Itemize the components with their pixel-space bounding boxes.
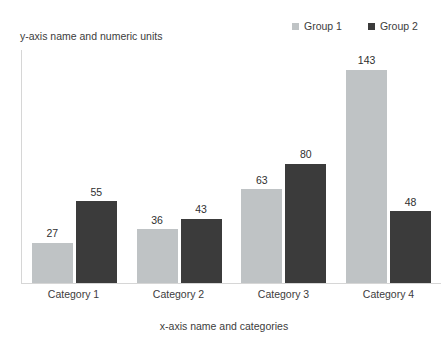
bar-value-label: 80 — [300, 149, 312, 160]
bar-value-label: 27 — [47, 228, 59, 239]
bar-group: 3643 — [137, 50, 222, 283]
bar-group-2[interactable] — [285, 164, 326, 283]
bar-column: 143 — [346, 50, 387, 283]
bar-chart: Group 1 Group 2 y-axis name and numeric … — [0, 0, 448, 339]
bar-value-label: 55 — [91, 187, 103, 198]
bar-column: 48 — [390, 50, 431, 283]
bar-group-1[interactable] — [346, 70, 387, 283]
bar-group-2[interactable] — [181, 219, 222, 283]
x-axis-tick-labels: Category 1Category 2Category 3Category 4 — [21, 288, 441, 300]
bar-column: 27 — [32, 50, 73, 283]
bar-column: 80 — [285, 50, 326, 283]
x-axis-tick-label: Category 1 — [48, 288, 99, 300]
legend-swatch-group-1-icon — [292, 23, 299, 30]
legend-item-group-2[interactable]: Group 2 — [368, 20, 418, 32]
legend-label-group-2: Group 2 — [380, 20, 418, 32]
bar-group: 2755 — [32, 50, 117, 283]
bar-value-label: 143 — [358, 55, 376, 66]
bar-group: 6380 — [241, 50, 326, 283]
bar-value-label: 43 — [195, 204, 207, 215]
bar-group: 14348 — [346, 50, 431, 283]
bar-group-2[interactable] — [390, 211, 431, 283]
bar-group-1[interactable] — [137, 229, 178, 283]
bar-groups: 27553643638014348 — [22, 50, 441, 283]
bar-group-1[interactable] — [241, 189, 282, 283]
bar-value-label: 63 — [256, 175, 268, 186]
legend-swatch-group-2-icon — [368, 23, 375, 30]
bar-column: 43 — [181, 50, 222, 283]
x-axis-tick-label: Category 2 — [153, 288, 204, 300]
plot-area: 27553643638014348 — [21, 50, 441, 284]
bar-column: 36 — [137, 50, 178, 283]
x-axis-title: x-axis name and categories — [0, 320, 448, 332]
y-axis-title: y-axis name and numeric units — [20, 30, 162, 42]
bar-group-2[interactable] — [76, 201, 117, 283]
bar-column: 63 — [241, 50, 282, 283]
bar-value-label: 48 — [405, 197, 417, 208]
bar-value-label: 36 — [151, 215, 163, 226]
chart-legend: Group 1 Group 2 — [292, 20, 418, 32]
x-axis-tick-label: Category 4 — [363, 288, 414, 300]
bar-column: 55 — [76, 50, 117, 283]
legend-item-group-1[interactable]: Group 1 — [292, 20, 342, 32]
bar-group-1[interactable] — [32, 243, 73, 283]
legend-label-group-1: Group 1 — [304, 20, 342, 32]
x-axis-tick-label: Category 3 — [258, 288, 309, 300]
